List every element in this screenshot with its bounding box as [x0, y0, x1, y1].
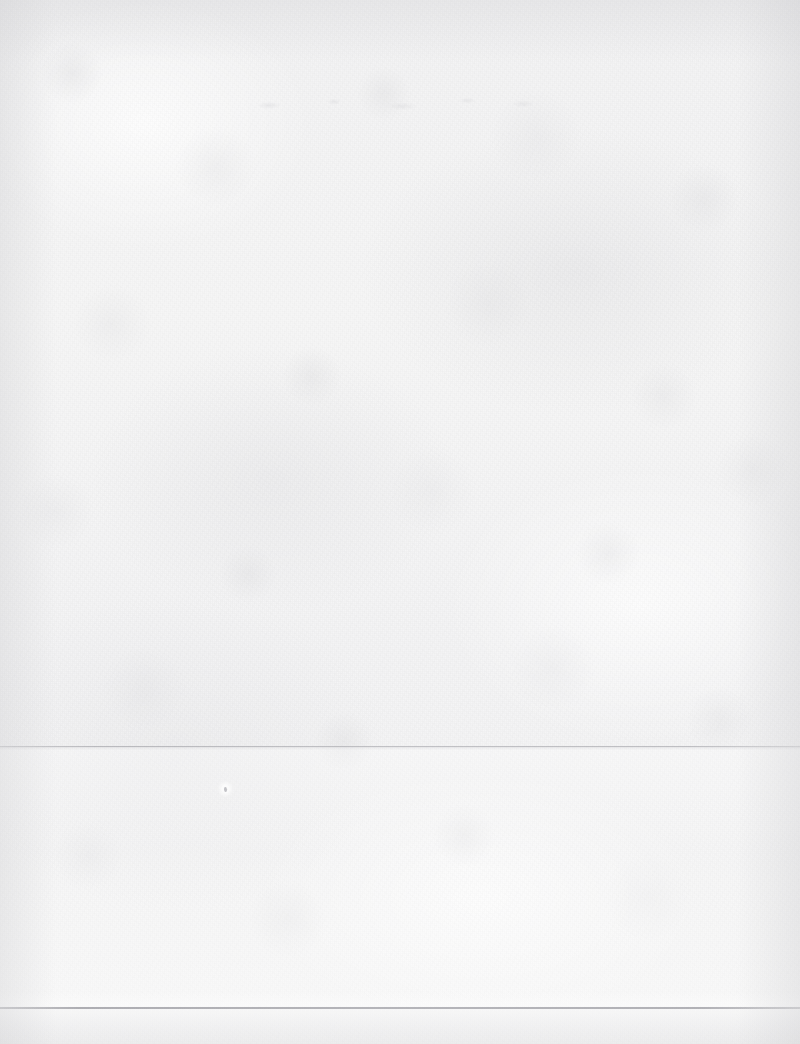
page-edge-vignette: [0, 0, 800, 1044]
paper-grain-texture: [0, 0, 800, 1044]
bottom-band: [0, 1009, 800, 1044]
paper-mottle-texture: [0, 0, 800, 1044]
lower-horizontal-rule-glow: [0, 992, 800, 1007]
upper-horizontal-rule: [0, 746, 800, 747]
ghost-marks: [238, 90, 548, 118]
page-body-text: [0, 0, 1, 1]
lower-horizontal-rule: [0, 1007, 800, 1009]
scanned-page: [0, 0, 800, 1044]
upper-horizontal-rule-shadow: [0, 747, 800, 750]
ink-speck-halo: [221, 784, 230, 794]
ink-speck: [224, 787, 228, 792]
middle-band: [0, 748, 800, 1006]
